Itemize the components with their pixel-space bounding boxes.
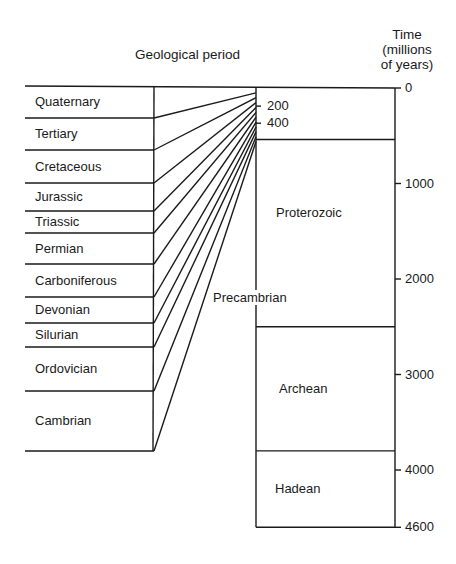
period-label: Devonian (35, 302, 90, 317)
geologic-time-diagram: Geological period Time (millions of year… (0, 0, 456, 564)
axis-tick-label: 0 (405, 80, 412, 95)
precambrian-label: Precambrian (212, 290, 288, 305)
period-fan-line (154, 107, 256, 211)
period-label: Jurassic (35, 189, 83, 204)
axis-tick-label: 4600 (405, 519, 434, 534)
time-axis-heading-line2: (millions (362, 42, 452, 57)
phanerozoic-tick-label: 200 (267, 98, 289, 113)
time-axis-heading-line3: of years) (362, 57, 452, 72)
period-label: Cretaceous (35, 159, 101, 174)
axis-tick-label: 4000 (405, 462, 434, 477)
period-label: Quaternary (35, 94, 100, 109)
time-axis-heading-line1: Time (362, 27, 452, 42)
phanerozoic-tick-label: 400 (267, 115, 289, 130)
period-label: Triassic (35, 214, 79, 229)
period-label: Silurian (35, 327, 78, 342)
eon-label: Archean (279, 381, 327, 396)
top-boundary-line (25, 86, 395, 88)
period-fan-line (154, 112, 256, 233)
period-fan-line (154, 137, 256, 391)
period-fan-line (154, 117, 256, 264)
period-fan-line (154, 132, 256, 347)
period-column-edge (153, 86, 154, 451)
period-fan-line (154, 122, 256, 297)
geological-period-heading: Geological period (135, 47, 240, 62)
period-label: Cambrian (35, 413, 91, 428)
axis-tick-label: 3000 (405, 367, 434, 382)
period-label: Carboniferous (35, 273, 117, 288)
period-label: Ordovician (35, 361, 97, 376)
period-label: Permian (35, 241, 83, 256)
period-label: Tertiary (35, 126, 78, 141)
eon-label: Proterozoic (276, 205, 342, 220)
time-axis-heading: Time (millions of years) (362, 27, 452, 72)
axis-tick-label: 2000 (405, 271, 434, 286)
eon-label: Hadean (275, 481, 321, 496)
axis-tick-label: 1000 (405, 176, 434, 191)
